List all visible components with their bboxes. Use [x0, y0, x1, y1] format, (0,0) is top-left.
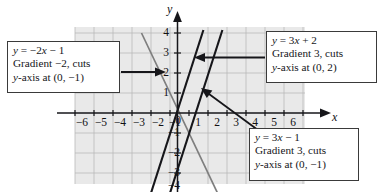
callout-intercept-text: y-axis at (0, −1) [13, 71, 114, 84]
equation-constant: − 1 [47, 44, 65, 56]
callout-intercept-text: y-axis at (0, 2) [272, 61, 371, 74]
y-tick-label: −4 [166, 179, 182, 191]
callout-equation: y = −2x − 1 [13, 44, 114, 57]
callout-equation: y = 3x − 1 [255, 131, 353, 144]
y-tick-label: −3 [166, 166, 182, 178]
x-tick-label: 6 [287, 116, 299, 128]
x-tick-label: 3 [230, 116, 242, 128]
callout-gradient-text: Gradient 3, cuts [272, 47, 371, 60]
callout-gradient-text: Gradient −2, cuts [13, 57, 114, 70]
y-tick-label: −2 [166, 146, 182, 158]
x-tick-label: −3 [129, 116, 149, 128]
equation-constant: − 1 [282, 131, 300, 143]
y-tick-label: 1 [160, 86, 172, 98]
y-tick-label: 4 [160, 26, 172, 38]
x-tick-label: 4 [249, 116, 261, 128]
callout-y-eq-3x-plus2: y = 3x + 2 Gradient 3, cuts y-axis at (0… [266, 31, 377, 83]
intercept-rest: -axis at (0, −1) [260, 158, 326, 170]
callout-gradient-text: Gradient 3, cuts [255, 144, 353, 157]
x-axis-label: x [332, 110, 337, 125]
x-tick-label: 5 [268, 116, 280, 128]
y-tick-label: −1 [166, 126, 182, 138]
callout-intercept-text: y-axis at (0, −1) [255, 158, 353, 171]
x-tick-label: 1 [192, 116, 204, 128]
equation-operator: = −2 [18, 44, 42, 56]
x-tick-label: 2 [211, 116, 223, 128]
callout-y-eq-3x-minus1: y = 3x − 1 Gradient 3, cuts y-axis at (0… [249, 128, 359, 181]
equation-operator: = 3 [277, 34, 295, 46]
x-tick-label: −4 [110, 116, 130, 128]
graph-figure: y x −6 −5 −4 −3 −2 −1 0 1 2 3 4 5 6 4 3 … [0, 0, 382, 192]
callout-y-eq-neg2x-minus1: y = −2x − 1 Gradient −2, cuts y-axis at … [7, 41, 120, 93]
x-tick-label: −6 [72, 116, 92, 128]
y-axis-arrowhead [173, 11, 182, 22]
y-tick-label: 2 [160, 66, 172, 78]
callout-equation: y = 3x + 2 [272, 34, 371, 47]
intercept-rest: -axis at (0, 2) [277, 61, 337, 73]
x-axis-arrowhead [320, 109, 331, 118]
equation-operator: = 3 [260, 131, 278, 143]
x-tick-label: −5 [91, 116, 111, 128]
y-axis-label: y [167, 2, 172, 17]
intercept-rest: -axis at (0, −1) [18, 71, 84, 83]
y-tick-label: 3 [160, 46, 172, 58]
x-tick-label-origin: 0 [172, 114, 184, 126]
equation-constant: + 2 [299, 34, 317, 46]
